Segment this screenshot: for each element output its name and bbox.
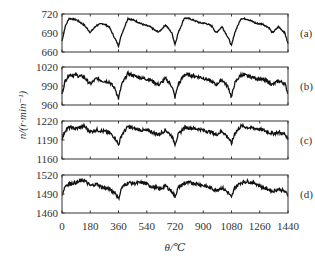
panel-d: 146014901520(d) [36, 169, 313, 219]
x-tick-label: 540 [139, 220, 156, 232]
chart: 660690720(a)9609901020(b)116011901220(c)… [0, 0, 315, 257]
y-tick-label: 1490 [36, 188, 59, 200]
y-tick-label: 960 [42, 99, 59, 111]
x-tick-label: 0 [59, 220, 65, 232]
y-tick-label: 660 [42, 46, 59, 58]
x-tick-label: 180 [82, 220, 99, 232]
x-tick-label: 1260 [249, 220, 272, 232]
y-tick-label: 1160 [36, 153, 58, 165]
panel-label: (c) [300, 134, 313, 147]
y-tick-label: 1220 [36, 115, 59, 127]
y-tick-label: 1020 [36, 61, 59, 73]
panel-label: (a) [300, 27, 313, 40]
y-tick-label: 990 [42, 80, 59, 92]
panel-b: 9609901020(b) [36, 61, 313, 111]
panel-frame [62, 67, 288, 105]
panel-frame [62, 175, 288, 213]
panels: 660690720(a)9609901020(b)116011901220(c)… [36, 8, 313, 219]
x-axis-ticks: 0180360540720900108012601440 [59, 220, 299, 232]
series-line [62, 125, 288, 146]
y-tick-label: 1460 [36, 207, 59, 219]
y-tick-label: 690 [42, 27, 59, 39]
x-tick-label: 720 [167, 220, 184, 232]
y-tick-label: 1520 [36, 169, 59, 181]
x-tick-label: 900 [195, 220, 212, 232]
series-line [62, 179, 288, 199]
y-tick-label: 720 [42, 8, 59, 20]
series-line [62, 72, 288, 100]
panel-a: 660690720(a) [42, 8, 313, 58]
x-axis-label: θ/℃ [165, 241, 186, 253]
panel-label: (d) [300, 188, 313, 201]
x-tick-label: 1440 [277, 220, 300, 232]
y-axis-label: n/(r·min⁻¹) [16, 90, 29, 139]
x-tick-label: 1080 [221, 220, 244, 232]
panel-frame [62, 121, 288, 159]
y-tick-label: 1190 [36, 134, 58, 146]
panel-c: 116011901220(c) [36, 115, 313, 165]
x-tick-label: 360 [110, 220, 127, 232]
panel-label: (b) [300, 80, 313, 93]
series-line [62, 18, 288, 47]
